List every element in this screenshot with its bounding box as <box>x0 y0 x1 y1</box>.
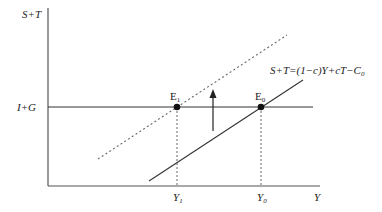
y1-tick-label: Y1 <box>173 191 183 205</box>
upward-shift-arrow-icon <box>210 89 217 131</box>
equilibrium-point-e1 <box>174 104 181 111</box>
y-axis-label: S+T <box>22 8 42 20</box>
i-plus-g-label: I+G <box>16 101 36 113</box>
keynesian-cross-diagram: S+T I+G Y E1 E0 Y1 Y0 S+T=(1−c)Y+cT−C0 <box>0 0 382 212</box>
equilibrium-point-e0 <box>258 104 265 111</box>
y0-tick-label: Y0 <box>257 191 267 205</box>
e0-label: E0 <box>255 90 266 104</box>
x-axis-label: Y <box>314 191 322 203</box>
e1-label: E1 <box>170 90 181 104</box>
savings-tax-equation: S+T=(1−c)Y+cT−C0 <box>270 64 365 78</box>
